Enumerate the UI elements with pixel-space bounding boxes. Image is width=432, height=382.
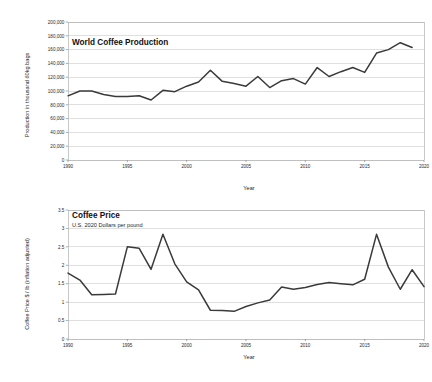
svg-text:0: 0 [62,158,65,163]
svg-text:2010: 2010 [300,164,311,169]
svg-text:20,000: 20,000 [50,144,64,149]
svg-text:100,000: 100,000 [48,89,65,94]
svg-text:0: 0 [62,337,65,342]
price-yticks: 00.511.522.533.5 [58,208,68,342]
svg-text:120,000: 120,000 [48,75,65,80]
price-svg: 00.511.522.533.5 19901995200020052010201… [0,196,432,382]
svg-text:80,000: 80,000 [50,103,64,108]
svg-text:2020: 2020 [419,343,430,348]
svg-text:200,000: 200,000 [48,20,65,25]
svg-text:3: 3 [62,226,65,231]
svg-text:1995: 1995 [122,343,133,348]
svg-text:2005: 2005 [241,343,252,348]
production-yticks: 020,00040,00060,00080,000100,000120,0001… [48,20,68,163]
svg-text:3.5: 3.5 [58,208,65,213]
chart-coffee-price: 00.511.522.533.5 19901995200020052010201… [0,196,432,382]
svg-text:1990: 1990 [63,343,74,348]
price-data-line [68,234,424,311]
svg-text:1.5: 1.5 [58,281,65,286]
svg-text:160,000: 160,000 [48,47,65,52]
svg-text:2010: 2010 [300,343,311,348]
svg-text:2.5: 2.5 [58,245,65,250]
svg-text:2015: 2015 [360,164,371,169]
svg-text:1995: 1995 [122,164,133,169]
svg-text:140,000: 140,000 [48,61,65,66]
svg-text:2015: 2015 [360,343,371,348]
price-x-axis-label: Year [243,354,254,360]
svg-text:2020: 2020 [419,164,430,169]
production-chart-title: World Coffee Production [72,38,168,47]
svg-text:60,000: 60,000 [50,116,64,121]
price-y-axis-label: Coffee Price $ / lb (inflation adjusted) [24,238,30,330]
production-x-axis-label: Year [243,185,254,191]
svg-text:0.5: 0.5 [58,318,65,323]
svg-text:2000: 2000 [182,343,193,348]
svg-text:2000: 2000 [182,164,193,169]
production-data-line [68,43,412,100]
svg-text:40,000: 40,000 [50,130,64,135]
price-frame [68,210,424,339]
price-chart-title: Coffee Price [72,211,120,220]
production-xticks: 1990199520002005201020152020 [63,160,430,169]
svg-text:1: 1 [62,300,65,305]
production-svg: 020,00040,00060,00080,000100,000120,0001… [0,0,432,196]
price-chart-subtitle: U.S. 2020 Dollars per pound [72,222,143,228]
svg-text:180,000: 180,000 [48,34,65,39]
production-y-axis-label: Production in thousand 60kg bags [24,53,30,138]
svg-text:1990: 1990 [63,164,74,169]
price-grid [68,210,424,339]
price-xticks: 1990199520002005201020152020 [63,339,430,348]
chart-world-coffee-production: 020,00040,00060,00080,000100,000120,0001… [0,0,432,196]
svg-text:2005: 2005 [241,164,252,169]
coffee-charts-figure: 020,00040,00060,00080,000100,000120,0001… [0,0,432,382]
svg-text:2: 2 [62,263,65,268]
